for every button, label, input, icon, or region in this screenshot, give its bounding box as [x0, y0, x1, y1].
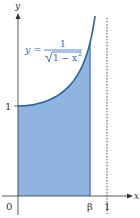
equation-denominator: 1 − x [53, 53, 77, 63]
x-tick-label-1: 1 [104, 201, 110, 212]
equation-lhs: y = [24, 44, 41, 55]
x-axis-label: x [134, 191, 139, 201]
equation-label: y = 1 1 − x 2 [24, 39, 82, 63]
y-axis-arrow-icon [16, 13, 21, 19]
shaded-area [18, 43, 90, 196]
integral-chart: y x 0 1 β 1 y = 1 1 − x 2 [0, 0, 140, 218]
y-axis-label: y [14, 1, 21, 11]
origin-label: 0 [6, 201, 12, 212]
beta-label: β [87, 201, 93, 212]
equation-numerator: 1 [60, 39, 66, 49]
y-tick-label-1: 1 [5, 101, 11, 112]
equation-exponent: 2 [78, 50, 82, 57]
x-axis-arrow-icon [127, 194, 133, 199]
